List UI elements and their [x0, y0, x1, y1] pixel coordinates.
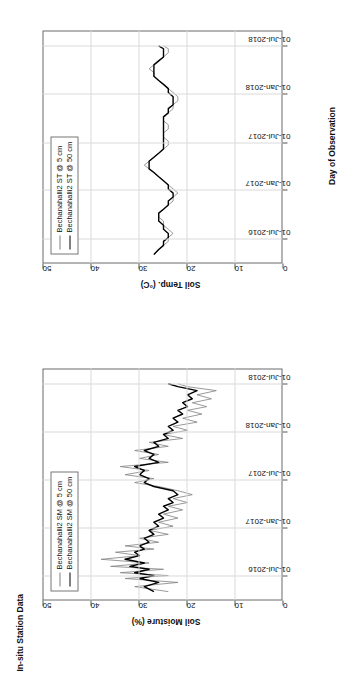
y-axis-tick-label: 20: [186, 600, 195, 609]
legend-item: Bechanahalli2 SM @ 5 cm: [54, 476, 64, 586]
gridline-vertical: [42, 45, 282, 46]
legend-soil-moisture: Bechanahalli2 SM @ 5 cmBechanahalli2 SM …: [50, 471, 78, 591]
legend-line-swatch: [59, 572, 60, 586]
x-axis-tick: [282, 575, 287, 576]
legend-line-swatch: [59, 235, 60, 249]
gridline-horizontal: [186, 30, 187, 263]
gridline-horizontal: [138, 368, 139, 600]
y-axis-tick-label: 50: [42, 263, 51, 272]
x-axis-tick: [282, 383, 287, 384]
x-axis-tick-label: 01-Jan-2017: [245, 516, 290, 525]
gridline-horizontal: [138, 30, 139, 263]
y-axis-tick-label: 30: [138, 263, 147, 272]
x-axis-tick: [282, 142, 287, 143]
x-axis-tick-label: 01-Jul-2018: [248, 34, 290, 43]
series-lines-soil-temperature: [43, 29, 283, 262]
x-axis-tick-label: 01-Jan-2018: [245, 420, 290, 429]
y-axis-tick-label: 10: [234, 600, 243, 609]
legend-soil-temperature: Bechanahalli2 ST @ 5 cmBechanahalli2 ST …: [50, 136, 78, 254]
legend-line-swatch: [69, 235, 70, 249]
legend-label: Bechanahalli2 SM @ 5 cm: [54, 481, 64, 570]
x-axis-tick-label: 01-Jul-2017: [248, 468, 290, 477]
x-axis-tick: [282, 431, 287, 432]
x-axis-tick-label: 01-Jul-2017: [248, 131, 290, 140]
x-axis-title-day-of-observation: Day of Observation: [326, 107, 336, 185]
y-axis-tick-label: 40: [90, 600, 99, 609]
page-title: In-situ Station Data: [14, 594, 24, 671]
x-axis-tick-label: 01-Jul-2016: [248, 564, 290, 573]
panel-soil-temperature: 01-Jul-201601-Jan-201701-Jul-201701-Jan-…: [0, 0, 364, 338]
gridline-horizontal: [234, 368, 235, 600]
y-axis-title-soil-temperature: Soil Temp. (°C): [140, 279, 200, 289]
screenshot-root: In-situ Station Data 01-Jul-201601-Jan-2…: [0, 0, 364, 675]
data-series-line: [149, 45, 173, 254]
y-axis-tick-label: 30: [138, 600, 147, 609]
x-axis-tick-label: 01-Jul-2018: [248, 372, 290, 381]
gridline-vertical: [42, 431, 282, 432]
x-axis-tick: [282, 238, 287, 239]
x-axis-tick-label: 01-Jul-2016: [248, 227, 290, 236]
y-axis-tick-label: 10: [234, 263, 243, 272]
x-axis-tick: [282, 189, 287, 190]
legend-label: Bechanahalli2 ST @ 50 cm: [64, 141, 74, 232]
legend-label: Bechanahalli2 SM @ 50 cm: [64, 476, 74, 569]
panel-soil-moisture: In-situ Station Data 01-Jul-201601-Jan-2…: [0, 338, 364, 675]
gridline-horizontal: [186, 368, 187, 600]
y-axis-tick-label: 0: [283, 263, 287, 272]
x-axis-tick: [282, 93, 287, 94]
legend-item: Bechanahalli2 SM @ 50 cm: [64, 476, 74, 586]
legend-item: Bechanahalli2 ST @ 5 cm: [54, 141, 64, 249]
y-axis-title-soil-moisture: Soil Moisture (%): [131, 616, 200, 626]
legend-item: Bechanahalli2 ST @ 50 cm: [64, 141, 74, 249]
x-axis-tick: [282, 45, 287, 46]
y-axis-tick-label: 20: [186, 263, 195, 272]
y-axis-tick-label: 50: [42, 600, 51, 609]
gridline-horizontal: [90, 368, 91, 600]
x-axis-tick: [282, 479, 287, 480]
series-lines-soil-moisture: [43, 367, 283, 599]
y-axis-tick-label: 40: [90, 263, 99, 272]
x-axis-tick-label: 01-Jan-2017: [245, 178, 290, 187]
legend-label: Bechanahalli2 ST @ 5 cm: [54, 145, 64, 232]
y-axis-tick-label: 0: [283, 600, 287, 609]
x-axis-tick-label: 01-Jan-2018: [245, 82, 290, 91]
legend-line-swatch: [69, 572, 70, 586]
figure-canvas: In-situ Station Data 01-Jul-201601-Jan-2…: [0, 0, 364, 675]
gridline-vertical: [42, 93, 282, 94]
x-axis-tick: [282, 527, 287, 528]
gridline-horizontal: [90, 30, 91, 263]
gridline-horizontal: [234, 30, 235, 263]
gridline-vertical: [42, 383, 282, 384]
